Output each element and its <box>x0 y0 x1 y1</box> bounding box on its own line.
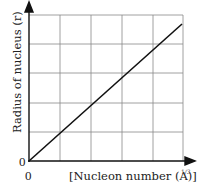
y-axis-label: Radius of nucleus (r) <box>10 11 24 133</box>
x-origin-label: 0 <box>25 168 32 183</box>
x-axis-label-superscript: 1/3 <box>181 168 191 175</box>
x-axis-arrow-icon <box>185 157 195 165</box>
axes <box>25 2 195 165</box>
chart: 0 0 [Nucleon number (A)] 1/3 Radius of n… <box>0 0 202 186</box>
data-line <box>29 24 182 161</box>
x-axis-label: [Nucleon number (A)] <box>69 169 197 183</box>
y-axis-arrow-icon <box>25 2 33 12</box>
grid <box>29 15 183 161</box>
y-origin-label: 0 <box>19 154 26 169</box>
